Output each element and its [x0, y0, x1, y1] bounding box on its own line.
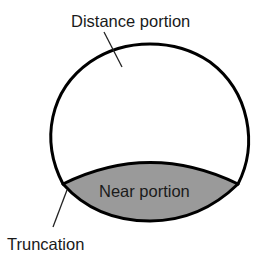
near-portion-label: Near portion [99, 182, 190, 200]
diagram-canvas: Distance portion Near portion Truncation [0, 0, 267, 263]
distance-portion-label: Distance portion [71, 12, 190, 30]
truncation-leader-line [53, 190, 67, 227]
truncation-label: Truncation [7, 235, 84, 253]
lens-diagram: Distance portion Near portion Truncation [0, 0, 267, 263]
